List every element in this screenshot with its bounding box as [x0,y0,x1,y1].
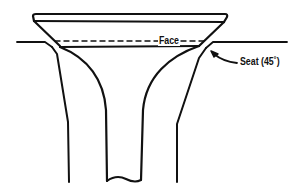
valve-stem-right [141,46,199,180]
face-label: Face [158,36,180,46]
valve-stem-break [107,177,141,181]
valve-seat-diagram: Face Seat (45˚) [0,0,304,188]
cylinder-head-surface-right [206,42,287,48]
valve-head-band-line [34,21,224,22]
seat-label: Seat (45˚) [240,57,280,67]
valve-drawing [0,0,304,188]
valve-face-bottom [60,46,199,47]
cylinder-head-surface-left [17,42,52,47]
port-wall-right [177,48,206,182]
port-wall-left [52,47,69,182]
